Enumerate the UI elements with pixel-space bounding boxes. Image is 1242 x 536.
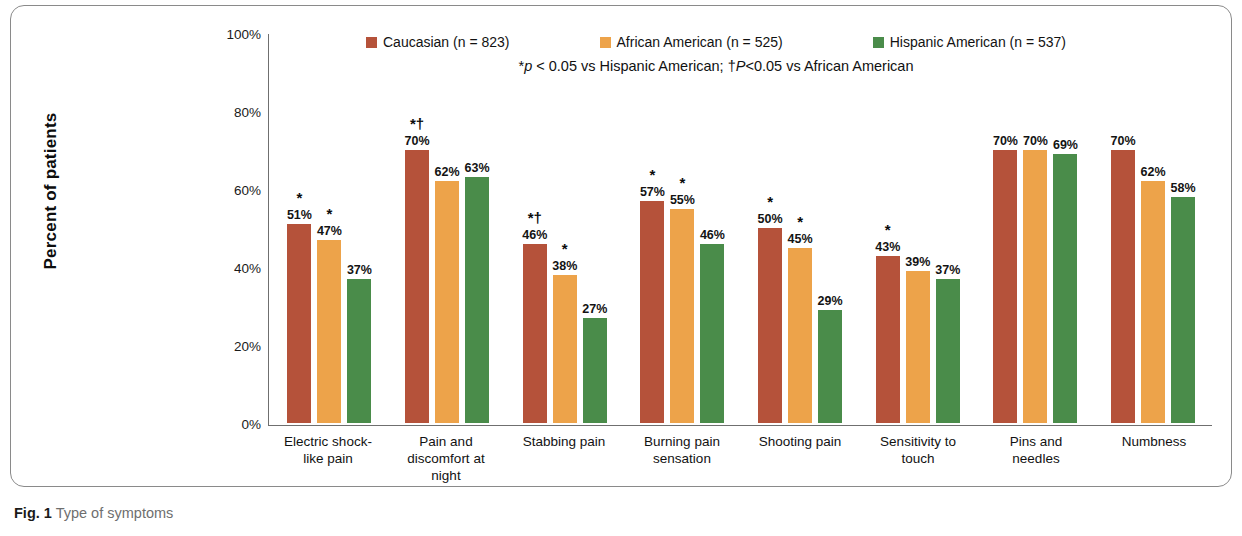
bar[interactable] xyxy=(583,318,607,423)
x-axis-category-label: Pins andneedles xyxy=(977,434,1095,485)
bar[interactable] xyxy=(465,177,489,423)
bar-value-label: 57% xyxy=(640,185,665,199)
significance-marker: *† xyxy=(410,116,424,131)
significance-marker: * xyxy=(680,175,686,190)
y-axis-ticks: 0%20%40%60%80%100% xyxy=(201,6,261,486)
bar[interactable] xyxy=(788,248,812,424)
bar[interactable] xyxy=(405,150,429,423)
figure-caption-body: Type of symptoms xyxy=(56,505,174,521)
bar[interactable] xyxy=(287,224,311,423)
bar[interactable] xyxy=(435,181,459,423)
x-axis-category-label: Sensitivity totouch xyxy=(859,434,977,485)
bar-chart: Percent of patients 0%20%40%60%80%100% C… xyxy=(11,6,1231,486)
bar-column: 38%* xyxy=(553,34,577,423)
bar[interactable] xyxy=(1053,154,1077,423)
significance-marker: * xyxy=(650,167,656,182)
bar-column: 62% xyxy=(435,34,459,423)
bar-column: 43%* xyxy=(876,34,900,423)
bar-column: 63% xyxy=(465,34,489,423)
bar[interactable] xyxy=(1023,150,1047,423)
bar-column: 45%* xyxy=(788,34,812,423)
significance-marker: * xyxy=(885,222,891,237)
bar-value-label: 70% xyxy=(1111,134,1136,148)
bar-value-label: 39% xyxy=(905,255,930,269)
bar-value-label: 50% xyxy=(758,212,783,226)
bar[interactable] xyxy=(640,201,664,424)
y-tick-label: 0% xyxy=(201,417,261,432)
bar[interactable] xyxy=(906,271,930,423)
bar[interactable] xyxy=(758,228,782,423)
bar-value-label: 45% xyxy=(788,232,813,246)
significance-marker: * xyxy=(562,241,568,256)
x-axis-category-label: Stabbing pain xyxy=(505,434,623,485)
bar-column: 37% xyxy=(936,34,960,423)
bar-column: 46%*† xyxy=(523,34,547,423)
x-axis-category-label: Burning painsensation xyxy=(623,434,741,485)
bar[interactable] xyxy=(700,244,724,424)
bar-value-label: 70% xyxy=(405,134,430,148)
bar-value-label: 37% xyxy=(347,263,372,277)
bar-value-label: 29% xyxy=(818,294,843,308)
bar[interactable] xyxy=(523,244,547,424)
y-tick-label: 20% xyxy=(201,339,261,354)
x-axis-labels: Electric shock-like painPain anddiscomfo… xyxy=(269,434,1213,485)
bar-value-label: 70% xyxy=(1023,134,1048,148)
bar-column: 51%* xyxy=(287,34,311,423)
bar[interactable] xyxy=(317,240,341,423)
bar-column: 57%* xyxy=(640,34,664,423)
bar-value-label: 37% xyxy=(935,263,960,277)
bar-value-label: 69% xyxy=(1053,138,1078,152)
bar-column: 70% xyxy=(993,34,1017,423)
bar-value-label: 62% xyxy=(435,165,460,179)
bar-column: 58% xyxy=(1171,34,1195,423)
plot-area: 51%*47%*37%70%*†62%63%46%*†38%*27%57%*55… xyxy=(268,34,1212,426)
bar-value-label: 51% xyxy=(287,208,312,222)
significance-marker: * xyxy=(327,206,333,221)
y-axis-title: Percent of patients xyxy=(41,91,61,291)
bar-column: 47%* xyxy=(317,34,341,423)
bar[interactable] xyxy=(1171,197,1195,423)
bar-column: 39% xyxy=(906,34,930,423)
bar-column: 29% xyxy=(818,34,842,423)
bar-value-label: 43% xyxy=(875,240,900,254)
bar[interactable] xyxy=(670,209,694,424)
bar[interactable] xyxy=(993,150,1017,423)
figure-caption-label: Fig. 1 xyxy=(14,505,52,521)
bar-group: 57%*55%*46% xyxy=(624,34,742,423)
bar-group: 70%62%58% xyxy=(1094,34,1212,423)
bar-group: 46%*†38%*27% xyxy=(506,34,624,423)
significance-marker: * xyxy=(297,190,303,205)
bar-column: 70% xyxy=(1111,34,1135,423)
bar-column: 50%* xyxy=(758,34,782,423)
bar-group: 70%*†62%63% xyxy=(388,34,506,423)
y-tick-label: 100% xyxy=(201,27,261,42)
bar[interactable] xyxy=(1141,181,1165,423)
bar-column: 70%*† xyxy=(405,34,429,423)
bar-value-label: 27% xyxy=(582,302,607,316)
bar[interactable] xyxy=(818,310,842,423)
bar-column: 27% xyxy=(583,34,607,423)
bar[interactable] xyxy=(936,279,960,423)
figure-panel: Percent of patients 0%20%40%60%80%100% C… xyxy=(10,5,1232,487)
x-axis-category-label: Shooting pain xyxy=(741,434,859,485)
x-axis-category-label: Numbness xyxy=(1095,434,1213,485)
bar-group: 50%*45%*29% xyxy=(741,34,859,423)
bar[interactable] xyxy=(876,256,900,424)
bar-value-label: 55% xyxy=(670,193,695,207)
bar[interactable] xyxy=(553,275,577,423)
bar-value-label: 46% xyxy=(700,228,725,242)
bar-column: 46% xyxy=(700,34,724,423)
bar-column: 62% xyxy=(1141,34,1165,423)
x-axis-category-label: Electric shock-like pain xyxy=(269,434,387,485)
bar-group: 43%*39%37% xyxy=(859,34,977,423)
bar-value-label: 70% xyxy=(993,134,1018,148)
bar-column: 55%* xyxy=(670,34,694,423)
bar-value-label: 62% xyxy=(1141,165,1166,179)
y-tick-label: 40% xyxy=(201,261,261,276)
bar[interactable] xyxy=(1111,150,1135,423)
bar[interactable] xyxy=(347,279,371,423)
bar-value-label: 58% xyxy=(1171,181,1196,195)
bar-column: 70% xyxy=(1023,34,1047,423)
bar-value-label: 63% xyxy=(465,161,490,175)
figure-caption: Fig. 1 Type of symptoms xyxy=(14,505,173,521)
